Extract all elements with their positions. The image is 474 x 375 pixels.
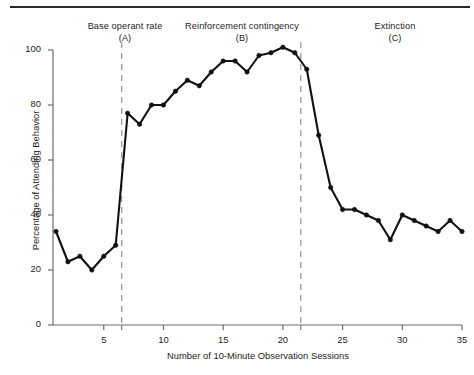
line-chart-plot xyxy=(0,0,474,375)
data-point-marker xyxy=(305,67,309,71)
data-point-marker xyxy=(137,122,141,126)
y-axis-tick-label: 20 xyxy=(11,263,41,274)
data-point-marker xyxy=(448,218,452,222)
data-point-marker xyxy=(340,207,344,211)
data-point-marker xyxy=(54,229,58,233)
x-axis-tick-label: 35 xyxy=(450,334,474,345)
data-point-marker xyxy=(185,78,189,82)
data-point-marker xyxy=(114,243,118,247)
y-axis-tick-label: 40 xyxy=(11,208,41,219)
data-point-marker xyxy=(436,229,440,233)
data-series-line xyxy=(56,47,462,270)
data-point-marker xyxy=(102,254,106,258)
data-point-marker xyxy=(197,84,201,88)
y-axis-tick-label: 60 xyxy=(11,153,41,164)
data-point-marker xyxy=(78,254,82,258)
data-point-marker xyxy=(317,133,321,137)
x-axis-tick-label: 15 xyxy=(211,334,235,345)
data-point-marker xyxy=(221,59,225,63)
x-axis-tick-label: 5 xyxy=(92,334,116,345)
data-point-marker xyxy=(328,185,332,189)
data-point-marker xyxy=(364,213,368,217)
data-point-marker xyxy=(269,51,273,55)
x-axis-tick-label: 25 xyxy=(331,334,355,345)
y-axis-tick-label: 80 xyxy=(11,98,41,109)
figure-container: Base operant rate (A) Reinforcement cont… xyxy=(0,0,474,375)
x-axis-tick-label: 20 xyxy=(271,334,295,345)
data-point-marker xyxy=(66,260,70,264)
data-point-marker xyxy=(125,111,129,115)
x-axis-tick-label: 30 xyxy=(390,334,414,345)
data-point-marker xyxy=(257,53,261,57)
data-point-marker xyxy=(293,51,297,55)
data-point-marker xyxy=(424,224,428,228)
data-point-marker xyxy=(376,218,380,222)
data-point-marker xyxy=(352,207,356,211)
data-point-marker xyxy=(388,238,392,242)
data-point-marker xyxy=(233,59,237,63)
x-axis-tick-label: 10 xyxy=(151,334,175,345)
data-point-marker xyxy=(209,70,213,74)
data-point-marker xyxy=(173,89,177,93)
data-point-marker xyxy=(149,103,153,107)
data-point-marker xyxy=(281,45,285,49)
y-axis-tick-label: 100 xyxy=(11,43,41,54)
data-point-marker xyxy=(460,229,464,233)
data-point-marker xyxy=(161,103,165,107)
data-point-marker xyxy=(90,268,94,272)
data-point-marker xyxy=(245,70,249,74)
data-point-marker xyxy=(412,218,416,222)
y-axis-tick-label: 0 xyxy=(11,318,41,329)
data-point-marker xyxy=(400,213,404,217)
